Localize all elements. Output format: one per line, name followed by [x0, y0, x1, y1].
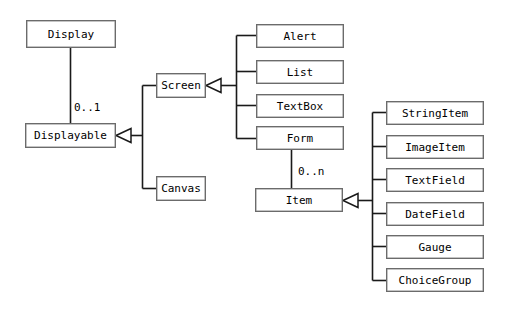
class-box-form[interactable]: Form	[256, 126, 344, 150]
class-name-datefield: DateField	[405, 209, 465, 220]
class-name-form: Form	[287, 133, 314, 144]
class-box-screen[interactable]: Screen	[156, 73, 206, 98]
class-box-stringitem[interactable]: StringItem	[386, 101, 484, 125]
class-name-screen: Screen	[161, 80, 201, 91]
class-name-list: List	[287, 67, 314, 78]
generalization-to-displayable	[116, 86, 156, 189]
class-name-canvas: Canvas	[161, 183, 201, 194]
class-box-datefield[interactable]: DateField	[386, 202, 484, 226]
class-box-imageitem[interactable]: ImageItem	[386, 135, 484, 159]
class-name-choicegroup: ChoiceGroup	[399, 275, 472, 286]
generalization-arrowhead	[206, 79, 221, 93]
class-name-textbox: TextBox	[277, 101, 323, 112]
class-name-imageitem: ImageItem	[405, 142, 465, 153]
class-box-canvas[interactable]: Canvas	[156, 176, 206, 201]
class-box-textfield[interactable]: TextField	[386, 168, 484, 192]
class-name-gauge: Gauge	[418, 242, 451, 253]
multiplicity-label-display-displayable: 0..1	[74, 102, 101, 113]
class-box-displayable[interactable]: Displayable	[25, 123, 116, 148]
generalization-arrowhead	[343, 194, 358, 208]
class-box-item[interactable]: Item	[255, 188, 343, 212]
generalization-arrowhead	[116, 129, 131, 143]
class-box-choicegroup[interactable]: ChoiceGroup	[386, 268, 484, 292]
class-box-list[interactable]: List	[256, 60, 344, 84]
class-name-display: Display	[48, 29, 94, 40]
class-box-display[interactable]: Display	[26, 20, 116, 48]
generalization-to-screen	[206, 36, 256, 139]
multiplicity-label-form-item: 0..n	[298, 166, 325, 177]
class-name-stringitem: StringItem	[402, 108, 468, 119]
generalization-to-item	[343, 113, 386, 281]
class-name-item: Item	[286, 195, 313, 206]
class-name-alert: Alert	[283, 31, 316, 42]
class-box-gauge[interactable]: Gauge	[386, 235, 484, 259]
class-box-textbox[interactable]: TextBox	[256, 94, 344, 118]
class-name-displayable: Displayable	[34, 130, 107, 141]
class-name-textfield: TextField	[405, 175, 465, 186]
uml-class-diagram: Display Displayable Screen Canvas Alert …	[0, 0, 508, 315]
class-box-alert[interactable]: Alert	[256, 24, 344, 48]
